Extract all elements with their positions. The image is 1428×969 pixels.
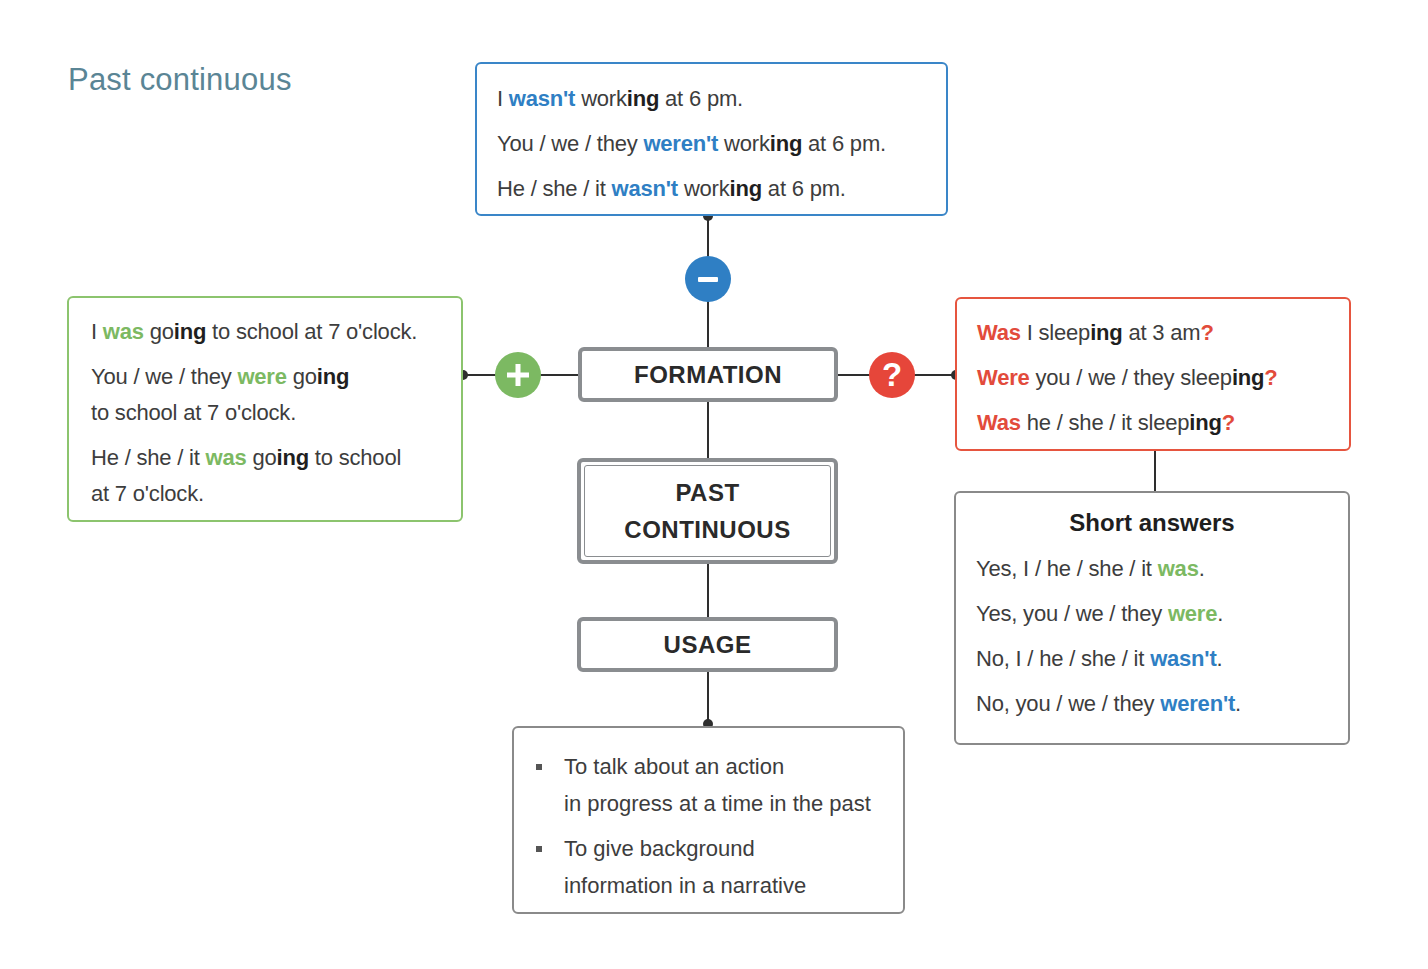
question-line: Was I sleeping at 3 am? bbox=[977, 315, 1349, 360]
positive-line: He / she / it was going to school bbox=[91, 440, 461, 476]
usage-node: USAGE bbox=[577, 617, 838, 672]
bullet-icon bbox=[536, 764, 542, 770]
short-answers-title: Short answers bbox=[956, 509, 1348, 537]
negative-line: I wasn't working at 6 pm. bbox=[497, 82, 946, 127]
bullet-icon bbox=[536, 846, 542, 852]
negative-examples-box: I wasn't working at 6 pm. You / we / the… bbox=[475, 62, 948, 216]
short-answers-box: Short answers Yes, I / he / she / it was… bbox=[954, 491, 1350, 745]
plus-icon bbox=[495, 352, 541, 398]
minus-icon bbox=[685, 256, 731, 302]
connector-formation-to-center bbox=[707, 402, 709, 458]
short-answer-line: Yes, you / we / they were. bbox=[976, 596, 1348, 641]
usage-item: To talk about an actionin progress at a … bbox=[532, 748, 903, 822]
formation-node: FORMATION bbox=[578, 347, 838, 402]
question-line: Was he / she / it sleeping? bbox=[977, 405, 1349, 450]
connector-q-to-short-answers bbox=[1154, 451, 1156, 491]
positive-line-continued: at 7 o'clock. bbox=[91, 476, 461, 512]
question-icon: ? bbox=[869, 352, 915, 398]
question-line: Were you / we / they sleeping? bbox=[977, 360, 1349, 405]
positive-line: I was going to school at 7 o'clock. bbox=[91, 314, 461, 350]
connector-usage-to-list bbox=[707, 672, 709, 726]
negative-line: You / we / they weren't working at 6 pm. bbox=[497, 127, 946, 172]
page-title: Past continuous bbox=[68, 62, 292, 98]
short-answer-line: Yes, I / he / she / it was. bbox=[976, 551, 1348, 596]
connector-center-to-usage bbox=[707, 564, 709, 617]
past-continuous-node: PASTCONTINUOUS bbox=[577, 458, 838, 564]
short-answer-line: No, I / he / she / it wasn't. bbox=[976, 641, 1348, 686]
question-examples-box: Was I sleeping at 3 am? Were you / we / … bbox=[955, 297, 1351, 451]
usage-item: To give backgroundinformation in a narra… bbox=[532, 830, 903, 904]
short-answer-line: No, you / we / they weren't. bbox=[976, 686, 1348, 731]
positive-examples-box: I was going to school at 7 o'clock. You … bbox=[67, 296, 463, 522]
positive-line-continued: to school at 7 o'clock. bbox=[91, 395, 461, 431]
negative-line: He / she / it wasn't working at 6 pm. bbox=[497, 172, 946, 217]
usage-list-box: To talk about an actionin progress at a … bbox=[512, 726, 905, 914]
positive-line: You / we / they were going bbox=[91, 359, 461, 395]
